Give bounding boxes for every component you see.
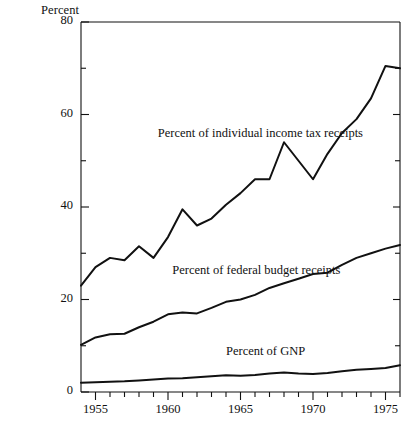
y-axis-tick-label: 40 [39,198,73,213]
x-axis-tick-label: 1965 [211,402,271,417]
series-line-percent-of-federal-budget-receipts [81,245,400,345]
y-axis-tick-label: 20 [39,291,73,306]
y-axis-tick-label: 60 [39,106,73,121]
x-axis-tick-label: 1975 [356,402,416,417]
chart-container: Percent 02040608019551960196519701975 Pe… [0,0,417,436]
series-annotation: Percent of GNP [226,344,305,359]
series-annotation: Percent of individual income tax receipt… [158,126,363,141]
x-axis-tick-label: 1970 [283,402,343,417]
x-axis-tick-label: 1960 [138,402,198,417]
series-annotation: Percent of federal budget receipts [172,263,340,278]
series-line-percent-of-gnp [81,365,400,383]
series-line-percent-of-individual-income-tax-receipts [81,66,400,286]
y-axis-tick-label: 0 [39,383,73,398]
x-axis-tick-label: 1955 [66,402,126,417]
y-axis-tick-label: 80 [39,13,73,28]
plot-area [0,0,417,436]
